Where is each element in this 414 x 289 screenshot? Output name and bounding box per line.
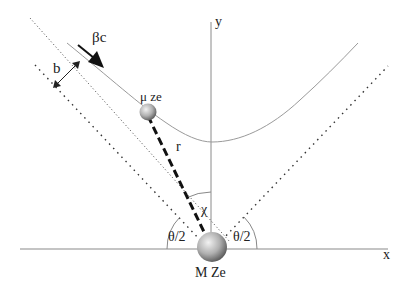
chi-arc xyxy=(186,192,211,198)
target-label: M Ze xyxy=(195,266,226,280)
velocity-arrowhead xyxy=(88,51,104,68)
x-axis-label: x xyxy=(383,248,390,262)
outgoing-line-right xyxy=(222,66,388,240)
velocity-arrow xyxy=(78,45,94,58)
y-axis-label: y xyxy=(215,15,222,29)
diagram-canvas xyxy=(0,0,414,289)
chi-label: χ xyxy=(201,203,207,217)
radius-line xyxy=(148,116,206,236)
projectile-sphere xyxy=(140,104,157,121)
projectile-label: μ ze xyxy=(140,90,162,104)
trajectory-curve xyxy=(67,43,358,142)
scattering-diagram: βc b μ ze r χ θ/2 θ/2 M Ze x y xyxy=(0,0,414,289)
impact-parameter-label: b xyxy=(53,61,61,75)
target-sphere xyxy=(197,232,227,262)
half-angle-right-label: θ/2 xyxy=(233,230,251,244)
half-angle-left-label: θ/2 xyxy=(168,230,186,244)
velocity-label: βc xyxy=(92,30,106,44)
distance-label: r xyxy=(176,140,181,154)
incoming-asymptote xyxy=(30,18,230,242)
